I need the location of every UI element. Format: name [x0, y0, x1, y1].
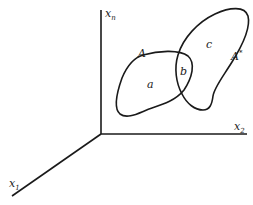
axis-label-xn: xn [105, 7, 116, 22]
set-label-A-star: A* [230, 49, 243, 63]
region-label-a: a [147, 78, 154, 91]
feature-space-diagram: xn x2 x1 A A* a b c [0, 0, 253, 205]
region-label-b: b [180, 65, 187, 78]
axis-x1 [12, 134, 101, 196]
axis-label-x1: x1 [9, 177, 20, 192]
axis-label-x2: x2 [234, 120, 245, 135]
set-A-boundary [116, 51, 192, 116]
set-label-A: A [137, 47, 146, 60]
region-label-c: c [206, 38, 212, 51]
